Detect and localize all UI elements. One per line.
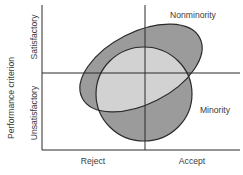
y-axis-title: Performance criterion: [6, 57, 16, 139]
nonminority-label: Nonminority: [170, 10, 217, 20]
x-label-reject: Reject: [81, 156, 106, 166]
y-label-unsatisfactory: Unsatisfactory: [29, 85, 39, 140]
diagram: Performance criterion Satisfactory Unsat…: [0, 0, 243, 175]
x-label-accept: Accept: [179, 156, 206, 166]
y-label-satisfactory: Satisfactory: [29, 14, 39, 60]
minority-label: Minority: [200, 105, 231, 115]
